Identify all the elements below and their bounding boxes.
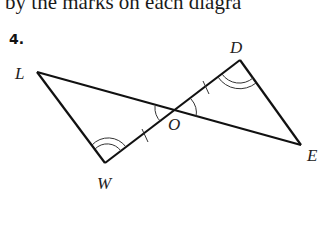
vertex-label-E: E	[306, 146, 318, 165]
vertex-label-L: L	[14, 64, 24, 83]
geometry-diagram: L W O D E	[0, 0, 325, 242]
segment-LE	[37, 72, 301, 145]
angle-arc-W-outer	[92, 138, 126, 147]
angle-arc-D-inner	[222, 74, 253, 83]
segment-DE	[240, 60, 301, 145]
segment-LW	[37, 72, 105, 163]
vertex-label-O: O	[168, 115, 180, 134]
angle-arc-W-inner	[95, 144, 121, 151]
segment-WD	[105, 60, 240, 163]
vertex-label-D: D	[229, 38, 243, 57]
vertex-label-W: W	[97, 174, 113, 193]
